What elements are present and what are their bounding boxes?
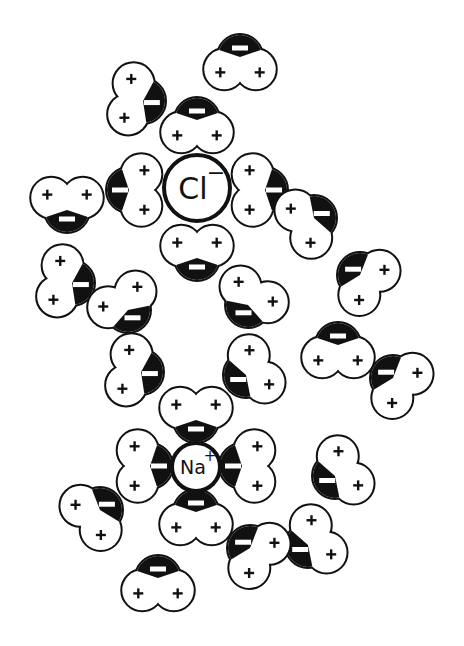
negative-charge-icon bbox=[144, 100, 160, 105]
sodium-symbol: Na bbox=[180, 456, 206, 478]
water-molecule bbox=[160, 490, 232, 544]
water-molecule bbox=[118, 430, 172, 502]
negative-charge-icon bbox=[189, 109, 205, 114]
hydrated-ions-diagram: Cl−Na+ Hydrated sodium and chloride ions… bbox=[0, 0, 464, 646]
water-molecule bbox=[161, 98, 233, 152]
water-molecule bbox=[224, 335, 285, 402]
negative-charge-icon bbox=[292, 547, 308, 552]
water-molecule bbox=[221, 266, 288, 327]
negative-charge-icon bbox=[378, 370, 394, 375]
negative-charge-icon bbox=[345, 267, 361, 272]
water-molecule bbox=[302, 323, 374, 377]
negative-charge-icon bbox=[235, 540, 251, 545]
negative-charge-icon bbox=[188, 427, 204, 432]
water-molecule bbox=[338, 251, 400, 315]
water-molecule bbox=[88, 271, 155, 332]
negative-charge-icon bbox=[189, 265, 205, 270]
water-molecules-layer bbox=[31, 35, 432, 610]
water-molecule bbox=[106, 334, 163, 405]
negative-charge-icon bbox=[125, 315, 141, 320]
water-molecule bbox=[60, 486, 122, 550]
negative-charge-icon bbox=[112, 188, 128, 193]
negative-charge-icon bbox=[99, 502, 115, 507]
diagram-canvas: Cl−Na+ bbox=[0, 0, 464, 646]
chloride-charge: − bbox=[207, 160, 225, 185]
negative-charge-icon bbox=[330, 334, 346, 339]
negative-charge-icon bbox=[151, 464, 167, 469]
water-molecule bbox=[160, 388, 232, 442]
negative-charge-icon bbox=[319, 478, 335, 483]
negative-charge-icon bbox=[266, 188, 282, 193]
negative-charge-icon bbox=[59, 217, 75, 222]
sodium-ion: Na+ bbox=[172, 443, 220, 491]
negative-charge-icon bbox=[142, 371, 158, 376]
water-molecule bbox=[286, 505, 347, 572]
water-molecule bbox=[37, 245, 94, 316]
chloride-symbol: Cl bbox=[178, 171, 207, 206]
water-molecule bbox=[220, 430, 274, 502]
negative-charge-icon bbox=[150, 567, 166, 572]
water-molecule bbox=[204, 35, 276, 89]
water-molecule bbox=[161, 226, 233, 280]
negative-charge-icon bbox=[230, 377, 246, 382]
negative-charge-icon bbox=[236, 310, 252, 315]
water-molecule bbox=[107, 154, 161, 226]
negative-charge-icon bbox=[188, 501, 204, 506]
water-molecule bbox=[31, 178, 103, 232]
negative-charge-icon bbox=[314, 211, 330, 216]
negative-charge-icon bbox=[73, 282, 89, 287]
negative-charge-icon bbox=[232, 46, 248, 51]
water-molecule bbox=[122, 556, 194, 610]
water-molecule bbox=[275, 191, 336, 258]
water-molecule bbox=[371, 354, 433, 418]
water-molecule bbox=[228, 524, 290, 588]
negative-charge-icon bbox=[225, 464, 241, 469]
sodium-charge: + bbox=[204, 447, 217, 465]
water-molecule bbox=[313, 436, 374, 503]
chloride-ion: Cl− bbox=[164, 155, 230, 221]
water-molecule bbox=[108, 63, 165, 134]
